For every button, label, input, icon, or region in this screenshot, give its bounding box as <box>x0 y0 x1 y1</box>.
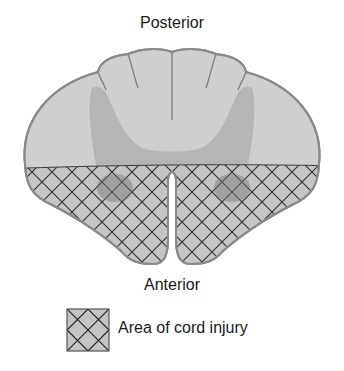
anterior-label: Anterior <box>0 276 344 294</box>
legend-label: Area of cord injury <box>118 319 248 337</box>
posterior-label: Posterior <box>0 14 344 32</box>
spinal-cord-diagram <box>0 0 344 371</box>
cord-injury-area <box>0 160 344 280</box>
legend-swatch <box>67 309 109 351</box>
